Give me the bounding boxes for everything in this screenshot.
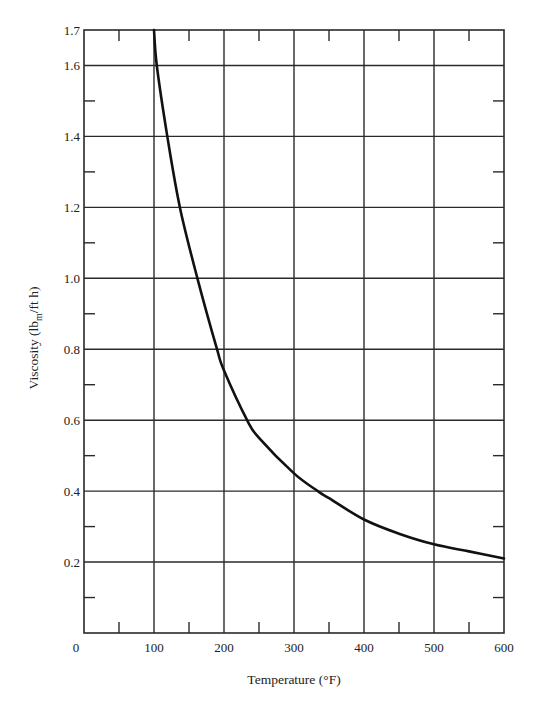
x-tick-label: 600 [494, 640, 514, 655]
y-axis-title-prefix: Viscosity (lb [26, 321, 41, 390]
grid-lines [84, 30, 504, 633]
y-tick-label: 0.6 [64, 413, 81, 428]
viscosity-chart: 0100200300400500600 0.20.40.60.81.01.21.… [0, 0, 533, 702]
x-tick-label: 100 [144, 640, 164, 655]
y-tick-label: 1.6 [64, 58, 81, 73]
x-tick-label: 200 [214, 640, 234, 655]
x-tick-label: 500 [424, 640, 444, 655]
y-tick-label: 1.4 [64, 129, 81, 144]
data-curve [154, 30, 504, 559]
y-tick-label: 1.0 [64, 271, 80, 286]
y-tick-labels: 0.20.40.60.81.01.21.41.61.7 [64, 23, 81, 570]
y-tick-label: 1.7 [64, 23, 81, 38]
y-tick-label: 0.2 [64, 555, 80, 570]
x-tick-label: 300 [284, 640, 304, 655]
x-axis-title: Temperature (°F) [247, 672, 340, 687]
y-axis-title-suffix: /ft h) [26, 287, 41, 314]
y-tick-label: 0.4 [64, 484, 81, 499]
x-tick-labels: 0100200300400500600 [73, 640, 514, 655]
x-tick-label: 400 [354, 640, 374, 655]
y-axis-title: Viscosity (lbm/ft h) [26, 287, 44, 390]
y-tick-label: 1.2 [64, 200, 80, 215]
y-tick-label: 0.8 [64, 342, 80, 357]
x-tick-label: 0 [73, 640, 80, 655]
